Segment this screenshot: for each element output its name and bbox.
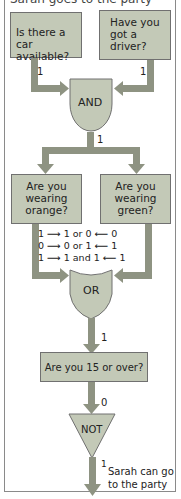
car-signal: 1 xyxy=(37,66,43,77)
and-signal: 1 xyxy=(97,134,103,145)
pipe-split-horizontal xyxy=(42,147,140,154)
car-line-1: Is there a car xyxy=(16,26,81,50)
result-line-1: Sarah can go xyxy=(108,465,174,478)
age-15-or-over-box: Are you 15 or over? xyxy=(40,352,148,382)
pipe-age-down xyxy=(88,382,95,406)
pipe-or-down xyxy=(88,318,95,346)
wearing-green-box: Are you wearing green? xyxy=(100,174,171,224)
driver-line-1: Have you xyxy=(110,16,170,28)
car-available-box: Is there a car available? xyxy=(10,12,82,58)
truth-row-3: 1 ⟶ 1 and 1 ⟵ 1 xyxy=(38,252,125,263)
age-line-1: Are you 15 or over? xyxy=(41,362,147,374)
or-label: OR xyxy=(83,285,99,296)
green-line-3: green? xyxy=(101,204,170,216)
cut-header-text: Sarah goes to the party xyxy=(10,0,152,6)
not-signal: 1 xyxy=(101,459,107,470)
have-driver-box: Have you got a driver? xyxy=(99,10,171,60)
green-line-2: wearing xyxy=(101,192,170,204)
truth-row-2: 0 ⟶ 0 or 1 ⟵ 1 xyxy=(38,240,117,251)
pipe-orange-right xyxy=(32,272,61,279)
pipe-green-left xyxy=(122,272,152,279)
result-line-2: to the party xyxy=(108,478,174,491)
pipe-car-right xyxy=(31,85,61,92)
orange-line-1: Are you xyxy=(12,180,81,192)
result-text: Sarah can go to the party xyxy=(108,465,174,491)
arrow-into-or-right xyxy=(113,268,123,283)
orange-line-2: wearing xyxy=(12,192,81,204)
arrow-into-green xyxy=(128,164,145,174)
truth-row-1: 1 ⟶ 1 or 0 ⟵ 0 xyxy=(38,228,117,239)
final-arrow xyxy=(84,484,101,496)
driver-line-2: got a xyxy=(110,28,170,40)
pipe-not-down xyxy=(89,457,96,487)
driver-line-3: driver? xyxy=(110,40,170,52)
and-label: AND xyxy=(78,97,102,108)
not-gate xyxy=(68,413,116,459)
age-signal: 0 xyxy=(101,397,107,408)
driver-signal: 1 xyxy=(140,66,146,77)
pipe-green-down xyxy=(145,224,152,279)
arrow-into-orange xyxy=(37,164,54,174)
not-label: NOT xyxy=(81,424,102,435)
wearing-orange-box: Are you wearing orange? xyxy=(11,174,82,224)
orange-line-3: orange? xyxy=(12,204,81,216)
pipe-driver-left xyxy=(122,85,154,92)
car-line-2: available? xyxy=(16,50,81,62)
green-line-1: Are you xyxy=(101,180,170,192)
arrow-into-and-right xyxy=(113,81,123,96)
or-signal: 1 xyxy=(101,332,107,343)
